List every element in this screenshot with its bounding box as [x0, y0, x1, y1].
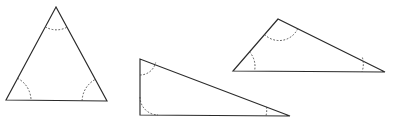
- figure-canvas: [0, 0, 395, 121]
- triangles-figure: [0, 0, 395, 121]
- figure-background: [0, 0, 395, 121]
